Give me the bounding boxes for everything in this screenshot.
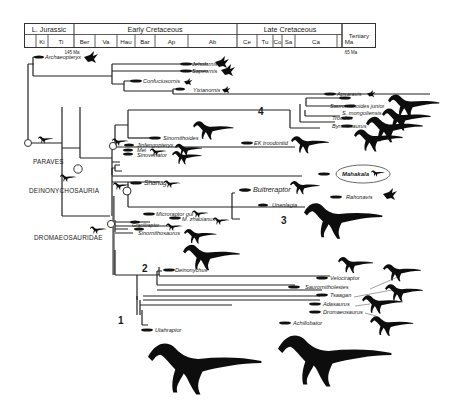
saurornitholestes-silhouette-icon: [383, 264, 421, 281]
byronosaurus-silhouette-icon: [354, 129, 403, 151]
label-yixianornis: Yixianornis: [193, 87, 220, 93]
timescale-frame: [25, 24, 376, 48]
unenlagia-silhouette-icon: [304, 203, 382, 238]
clade-label-dromaeosauridae: DROMAEOSAURIDAE: [34, 234, 103, 241]
label-adasaurus: Adasaurus: [322, 301, 350, 307]
ek-troodontid-silhouette-icon: [291, 136, 329, 153]
label-confuciusornis: Confuciusornis: [143, 78, 180, 84]
clade-number-4: 4: [258, 106, 264, 117]
label-mahakala: Mahakala: [342, 171, 370, 177]
label-saurornitholestes: Saurornitholestes: [305, 284, 349, 290]
label-utahraptor: Utahraptor: [155, 327, 183, 333]
phylogeny-figure: L. Jurassic Early Cretaceous Late Cretac…: [0, 0, 473, 419]
mahakala-silhouette-icon: [371, 170, 385, 176]
stage-bar: Bar: [140, 38, 150, 45]
stage-co: Co: [274, 38, 282, 45]
yixianornis-silhouette-icon: [222, 86, 230, 93]
rahonavis-silhouette-icon: [383, 188, 397, 200]
label-unenlagia: Unenlagia: [272, 202, 297, 208]
label-deinonychus: Deinonychus: [175, 267, 208, 273]
era-late-jurassic: L. Jurassic: [32, 25, 67, 34]
label-velociraptor: Velociraptor: [330, 275, 361, 281]
sinornithoides-silhouette-icon: [193, 121, 234, 139]
clade-label-paraves: PARAVES: [33, 158, 64, 165]
velociraptor-silhouette-icon: [338, 257, 373, 273]
node-deinonychosauria: [74, 165, 82, 173]
label-byronosaurus: Byronosaurus: [332, 123, 367, 129]
stage-ma: Ma: [345, 38, 354, 45]
stage-ca: Ca: [312, 38, 320, 45]
achillobator-silhouette-icon: [278, 335, 391, 386]
geologic-timescale: L. Jurassic Early Cretaceous Late Cretac…: [25, 24, 376, 56]
node-paraves: [25, 140, 32, 147]
buitreraptor-silhouette-icon: [290, 181, 320, 194]
stage-va: Va: [102, 38, 110, 45]
label-rahonavis: Rahonavis: [346, 194, 373, 200]
node-unenlagiinae: [123, 187, 131, 195]
label-troodon: Troodon: [332, 115, 352, 121]
dromaeosauridae-silhouette-icon: [90, 226, 106, 233]
era-early-cretaceous: Early Cretaceous: [127, 25, 183, 34]
stage-ti: Ti: [59, 38, 64, 45]
clade-number-3: 3: [281, 215, 287, 226]
stage-ber: Ber: [80, 38, 90, 45]
node-dromaeosauridae: [107, 220, 114, 227]
label-ek-troodontid: EK troodontid: [254, 140, 289, 146]
label-tsaagan: Tsaagan: [330, 292, 351, 298]
label-achillobator: Achillobator: [292, 320, 323, 326]
label-sapeornis: Sapeornis: [192, 68, 217, 74]
stage-sa: Sa: [285, 38, 293, 45]
label-jeholornis: Jeholornis: [191, 61, 218, 67]
label-sinornithoides: Sinornithoides: [163, 135, 199, 141]
label-dromaeosaurus: Dromaeosaurus: [323, 309, 363, 315]
stage-ap: Ap: [168, 38, 176, 45]
label-graciliraptor: Graciliraptor: [132, 222, 160, 228]
confuciusornis-silhouette-icon: [184, 78, 192, 85]
m-zhaoianus-silhouette-icon: [213, 217, 229, 224]
era-late-cretaceous: Late Cretaceous: [264, 25, 317, 34]
label-archaeopteryx: Archaeopteryx: [44, 54, 81, 60]
label-sinovenator: Sinovenator: [137, 152, 168, 158]
stage-ab: Ab: [209, 38, 217, 45]
label-shanag: Shanag: [144, 179, 167, 187]
node-troodontidae: [109, 142, 116, 149]
stage-hau: Hau: [120, 38, 132, 45]
clade-number-1: 1: [118, 315, 124, 326]
label-saurornithoides-junior: Saurornithoides junior: [330, 103, 386, 109]
clade-number-2: 2: [142, 263, 148, 274]
dromaeosaurus-silhouette-icon: [370, 316, 413, 336]
utahraptor-silhouette-icon: [148, 343, 261, 394]
marker-65-ma: 65 Ma: [345, 50, 358, 55]
archaeopteryx-silhouette-icon: [84, 51, 98, 63]
label-sinornithosaurus: Sinornithosaurus: [138, 230, 180, 236]
sinornithosaurus-silhouette-icon: [184, 229, 216, 244]
tsaagan-silhouette-icon: [385, 284, 423, 301]
label-apsaravis: Apsaravis: [336, 91, 362, 97]
stage-ki: Ki: [39, 38, 45, 45]
label-buitreraptor: Buitreraptor: [253, 185, 291, 194]
stage-ce: Ce: [243, 38, 251, 45]
stage-tu: Tu: [262, 38, 270, 45]
clade-label-deinonychosauria: DEINONYCHOSAURIA: [29, 187, 100, 194]
paraves-silhouette-icon: [38, 136, 53, 143]
